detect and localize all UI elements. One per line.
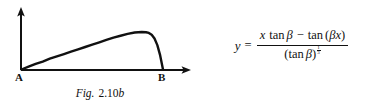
- formula-numerator: xtanβ−tan(βx): [257, 28, 349, 45]
- figure-panel: A B Fig.2.10b: [0, 0, 200, 107]
- numerator-tan-2: tan: [308, 28, 323, 42]
- equation-panel: y = xtanβ−tan(βx) (tanβ)13: [200, 0, 391, 107]
- axis-end-label: B: [158, 71, 166, 83]
- numerator-variable-x: x: [260, 28, 266, 42]
- exponent-denominator: 3: [317, 50, 320, 55]
- caption-prefix: Fig.: [76, 87, 95, 99]
- data-curve: [22, 32, 164, 70]
- numerator-minus-operator: −: [297, 28, 304, 42]
- formula-equals-sign: =: [245, 38, 252, 53]
- axis-origin-label: A: [15, 71, 23, 83]
- numerator-close-paren: ): [341, 28, 345, 42]
- numerator-tan-1: tan: [269, 28, 284, 42]
- numerator-beta-1: β: [286, 28, 292, 42]
- formula-lhs: y: [235, 38, 241, 54]
- denominator-tan: tan: [288, 47, 303, 61]
- formula-denominator: (tanβ)13: [281, 46, 323, 63]
- formula: y = xtanβ−tan(βx) (tanβ)13: [235, 28, 348, 62]
- y-axis: [17, 7, 25, 70]
- denominator-exponent: 13: [317, 45, 321, 56]
- caption-suffix: b: [119, 87, 125, 99]
- caption-number: 2.10: [98, 87, 118, 99]
- figure-caption: Fig.2.10b: [0, 87, 200, 99]
- formula-fraction: xtanβ−tan(βx) (tanβ)13: [257, 28, 349, 62]
- denominator-close-paren: ): [312, 47, 316, 61]
